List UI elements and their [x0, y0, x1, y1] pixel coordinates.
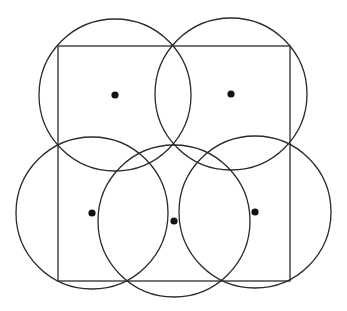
center-dot-bottom-middle [170, 217, 177, 224]
circle-group [16, 18, 331, 297]
center-dot-top-left [111, 91, 118, 98]
rectangle [58, 46, 290, 281]
center-dot-bottom-right [251, 208, 258, 215]
center-dot-group [88, 90, 258, 224]
center-dot-top-right [227, 90, 234, 97]
center-dot-bottom-left [88, 209, 95, 216]
circles-covering-rectangle-diagram [0, 0, 347, 311]
